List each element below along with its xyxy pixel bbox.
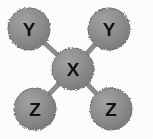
atom-y-top-left[interactable]: Y bbox=[8, 8, 50, 50]
atom-circle bbox=[90, 88, 132, 130]
atom-circle bbox=[88, 8, 130, 50]
atom-z-bottom-right[interactable]: Z bbox=[90, 88, 132, 130]
atom-x-center[interactable]: X bbox=[52, 48, 94, 90]
atom-circle bbox=[14, 88, 56, 130]
atom-z-bottom-left[interactable]: Z bbox=[14, 88, 56, 130]
molecule-diagram: Y Y X Z Z bbox=[0, 0, 153, 139]
atom-circle bbox=[52, 48, 94, 90]
molecule-canvas: Y Y X Z Z bbox=[0, 0, 153, 139]
atom-y-top-right[interactable]: Y bbox=[88, 8, 130, 50]
atom-circle bbox=[8, 8, 50, 50]
